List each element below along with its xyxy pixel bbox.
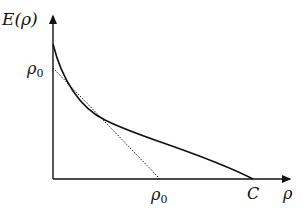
y-tick-rho0: ρ0	[26, 59, 43, 80]
x-end-label-C: C	[247, 184, 259, 203]
rate-curve-diagram: E(ρ) ρ0 ρ0 C ρ	[0, 0, 306, 211]
x-axis-label: ρ	[282, 184, 293, 203]
x-tick-rho0: ρ0	[150, 185, 167, 206]
error-exponent-curve	[53, 44, 253, 179]
y-axis-label: E(ρ)	[1, 9, 38, 29]
